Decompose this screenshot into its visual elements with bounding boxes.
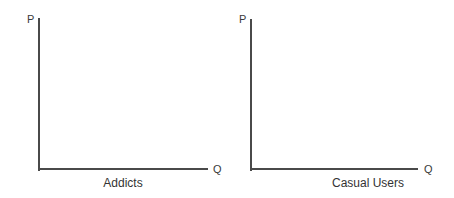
x-axis-label-q: Q (424, 163, 433, 175)
y-axis-label-p: P (239, 13, 246, 25)
y-axis-line (250, 19, 252, 171)
casual-users-graph: P Q Casual Users (0, 0, 454, 198)
x-axis-line (250, 168, 418, 170)
graph-caption: Casual Users (318, 176, 418, 190)
